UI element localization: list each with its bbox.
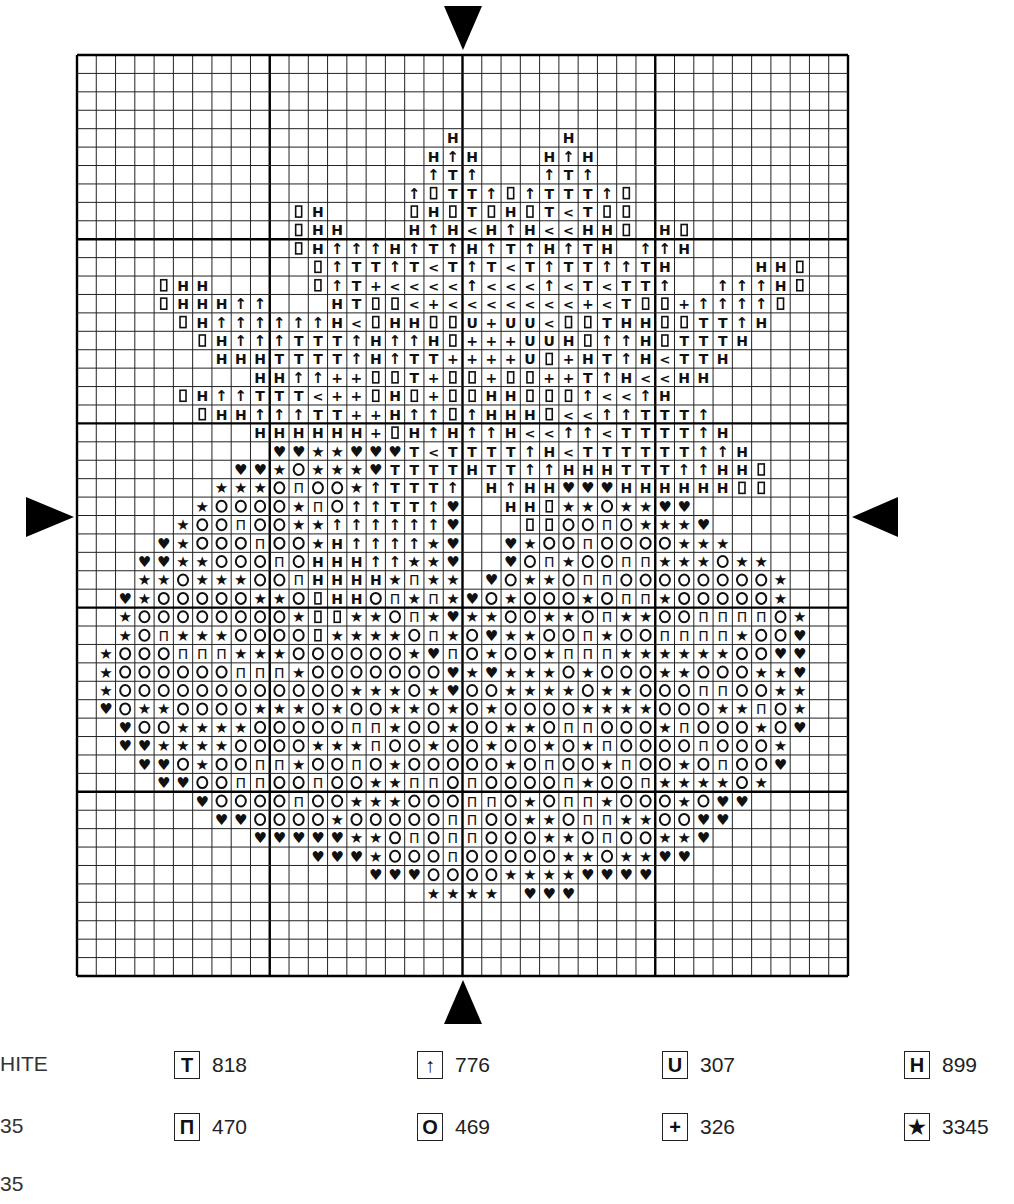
o-symbol-icon	[236, 611, 246, 622]
o-symbol-icon	[506, 648, 516, 659]
o-symbol-icon	[294, 814, 304, 825]
t-symbol-icon: T	[679, 407, 689, 423]
star-symbol-icon: ★	[562, 498, 575, 516]
h-symbol-icon: H	[254, 425, 266, 441]
o-symbol-icon	[660, 796, 670, 807]
star-symbol-icon: ★	[253, 645, 266, 663]
pi-symbol-icon: Π	[428, 628, 439, 644]
rectangle-symbol-icon	[758, 482, 764, 493]
o-symbol-icon	[390, 851, 400, 862]
less-than-symbol-icon: <	[563, 408, 574, 423]
arrow-up-symbol-icon: ↑	[716, 443, 729, 461]
o-symbol-icon	[217, 685, 227, 696]
plus-symbol-icon: +	[505, 351, 517, 367]
t-symbol-icon: T	[410, 444, 420, 460]
t-symbol-icon: T	[352, 278, 362, 294]
h-symbol-icon: H	[505, 425, 517, 441]
right-center-arrow-icon	[852, 497, 898, 537]
o-symbol-icon	[621, 796, 631, 807]
star-symbol-icon: ★	[427, 682, 440, 700]
o-symbol-icon	[236, 630, 246, 641]
h-symbol-icon: H	[678, 370, 690, 386]
o-symbol-icon	[274, 538, 284, 549]
rectangle-symbol-icon	[623, 188, 629, 199]
t-symbol-icon: T	[564, 259, 574, 275]
heart-symbol-icon: ♥	[716, 811, 729, 829]
star-symbol-icon: ★	[118, 608, 131, 626]
o-symbol-icon	[621, 667, 631, 678]
h-symbol-icon: H	[235, 407, 247, 423]
arrow-up-symbol-icon: ↑	[292, 314, 305, 332]
rectangle-symbol-icon	[797, 261, 803, 272]
o-symbol-icon	[641, 832, 651, 843]
o-symbol-icon	[641, 796, 651, 807]
o-symbol-icon	[409, 796, 419, 807]
h-symbol-icon: H	[486, 480, 498, 496]
o-symbol-icon	[178, 574, 188, 585]
arrow-up-symbol-icon: ↑	[639, 240, 652, 258]
o-symbol-icon	[332, 722, 342, 733]
heart-symbol-icon: ♥	[504, 535, 517, 553]
heart-symbol-icon: ♥	[562, 885, 575, 903]
arrow-up-symbol-icon: ↑	[254, 332, 267, 350]
legend-clipped-label: 35	[0, 1172, 23, 1196]
star-symbol-icon: ★	[697, 553, 710, 571]
rectangle-symbol-icon	[527, 390, 533, 401]
arrow-up-symbol-icon: ↑	[466, 424, 479, 442]
thread-code: 776	[455, 1053, 490, 1077]
pi-symbol-icon: Π	[583, 720, 594, 736]
arrow-up-symbol-icon: ↑	[215, 387, 228, 405]
plus-symbol-icon: +	[563, 370, 575, 386]
o-symbol-icon	[467, 740, 477, 751]
arrow-up-symbol-icon: ↑	[331, 516, 344, 534]
o-symbol-icon	[737, 685, 747, 696]
arrow-up-symbol-icon: ↑	[254, 295, 267, 313]
star-symbol-icon: ★	[311, 461, 324, 479]
heart-symbol-icon: ♥	[600, 479, 613, 497]
arrow-up-symbol-icon: ↑	[312, 369, 325, 387]
star-symbol-icon: ★	[504, 627, 517, 645]
arrow-up-symbol-icon: ↑	[369, 240, 382, 258]
t-symbol-icon: T	[410, 480, 420, 496]
star-symbol-icon: ★	[562, 829, 575, 847]
pi-symbol-icon: Π	[448, 812, 459, 828]
o-symbol-icon	[236, 501, 246, 512]
h-symbol-icon: H	[466, 149, 478, 165]
o-symbol-icon	[776, 630, 786, 641]
arrow-up-symbol-icon: ↑	[273, 406, 286, 424]
star-symbol-icon: ★	[562, 848, 575, 866]
t-symbol-icon: T	[313, 407, 323, 423]
pi-symbol-icon: Π	[602, 646, 613, 662]
o-symbol-icon	[564, 667, 574, 678]
o-symbol-icon	[217, 796, 227, 807]
pi-symbol-icon: Π	[255, 775, 266, 791]
star-symbol-icon: ★	[658, 719, 671, 737]
heart-symbol-icon: ♥	[176, 774, 189, 792]
o-symbol-icon	[698, 796, 708, 807]
star-symbol-icon: ★	[215, 571, 228, 589]
star-symbol-icon: ★	[793, 700, 806, 718]
bottom-center-arrow-icon	[444, 980, 482, 1024]
o-symbol-icon	[448, 759, 458, 770]
h-symbol-icon: H	[351, 425, 363, 441]
arrow-up-symbol-icon: ↑	[350, 535, 363, 553]
cross-stitch-chart: HHH↑HH↑H↑T↑↑T↑↑TT↑↑TTT↑HHTHT<THHH↑H<H↑H<…	[0, 0, 1014, 1040]
o-symbol-icon	[564, 538, 574, 549]
pi-symbol-icon: Π	[313, 775, 324, 791]
h-symbol-icon: H	[640, 351, 652, 367]
o-symbol-icon	[274, 501, 284, 512]
t-symbol-icon: T	[429, 241, 439, 257]
pi-symbol-icon: Π	[698, 683, 709, 699]
star-symbol-icon: ★	[562, 608, 575, 626]
o-symbol-icon	[486, 869, 496, 880]
star-symbol-icon: ★	[388, 627, 401, 645]
t-symbol-icon: T	[564, 167, 574, 183]
heart-symbol-icon: ♥	[639, 866, 652, 884]
t-symbol-icon: T	[352, 259, 362, 275]
h-symbol-icon: H	[543, 444, 555, 460]
heart-symbol-icon: ♥	[485, 571, 498, 589]
o-symbol-icon	[506, 703, 516, 714]
star-symbol-icon: ★	[485, 737, 498, 755]
arrow-up-symbol-icon: ↑	[369, 553, 382, 571]
less-than-symbol-icon: <	[390, 279, 401, 294]
